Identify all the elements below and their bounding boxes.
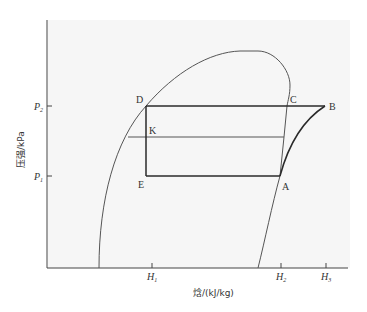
- point-c-label: C: [290, 94, 297, 105]
- p2-label: P2: [33, 101, 43, 113]
- h1-label: H1: [146, 271, 157, 283]
- h2-label: H2: [275, 271, 286, 283]
- point-d-label: D: [136, 94, 143, 105]
- x-axis-title: 焓/(kJ/kg): [193, 287, 234, 298]
- point-k-label: K: [149, 125, 157, 136]
- plot-area: [48, 20, 350, 268]
- pressure-enthalpy-diagram: D C B K E A P2 P1 H1 H2 H3 焓/(kJ/kg) 压强/…: [0, 0, 367, 312]
- point-e-label: E: [138, 179, 144, 190]
- y-axis-title: 压强/kPa: [16, 131, 26, 168]
- point-a-label: A: [282, 181, 290, 192]
- h3-label: H3: [320, 271, 331, 283]
- p1-label: P1: [33, 171, 43, 183]
- point-b-label: B: [329, 101, 336, 112]
